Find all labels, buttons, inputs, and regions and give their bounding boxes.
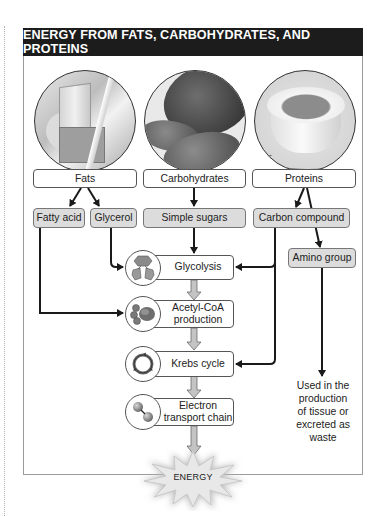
simple-sugars-box: Simple sugars bbox=[143, 208, 246, 228]
acetyl-coa-icon bbox=[125, 296, 161, 332]
etc-label-line2: transport chain bbox=[164, 412, 233, 423]
fatty-acid-box: Fatty acid bbox=[33, 208, 85, 228]
acetyl-coa-label-line2: production bbox=[174, 314, 223, 325]
acetyl-coa-label-line1: Acetyl-CoA bbox=[172, 302, 224, 313]
glycolysis-icon bbox=[125, 250, 161, 286]
glycolysis-label: Glycolysis bbox=[175, 261, 222, 274]
electron-transport-icon bbox=[125, 394, 161, 430]
carbon-compound-box: Carbon compound bbox=[253, 208, 350, 228]
source-box-proteins: Proteins bbox=[252, 169, 356, 188]
glycerol-box: Glycerol bbox=[90, 208, 137, 228]
amino-group-box: Amino group bbox=[288, 248, 356, 268]
energy-label: ENERGY bbox=[138, 472, 248, 482]
krebs-cycle-label: Krebs cycle bbox=[171, 358, 225, 371]
source-box-carbohydrates: Carbohydrates bbox=[143, 169, 246, 188]
krebs-cycle-icon bbox=[125, 346, 161, 382]
source-box-fats: Fats bbox=[33, 169, 137, 188]
amino-group-outcome-text: Used in the production of tissue or excr… bbox=[278, 379, 368, 444]
etc-label-line1: Electron bbox=[179, 400, 217, 411]
